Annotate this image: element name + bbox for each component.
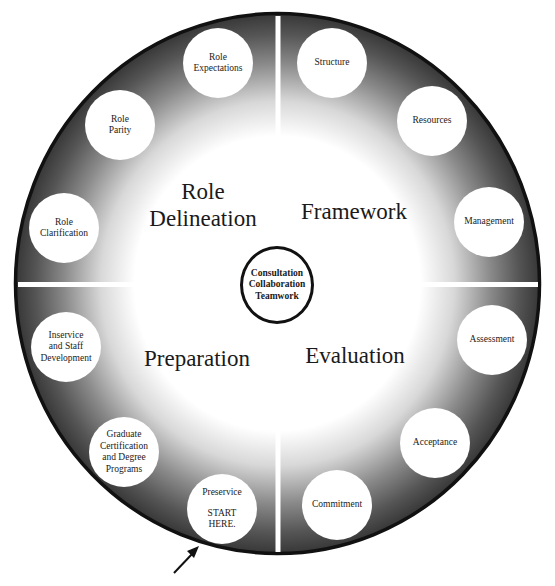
- node-text: Programs: [106, 464, 142, 476]
- center-line: Consultation: [251, 268, 303, 280]
- node-management[interactable]: Management: [454, 187, 524, 257]
- collaboration-cycle-diagram: Role Delineation Framework Preparation E…: [0, 0, 555, 586]
- start-here-text: HERE.: [208, 519, 235, 531]
- node-role-expectations[interactable]: Role Expectations: [183, 28, 253, 98]
- node-text: Development: [40, 353, 91, 365]
- node-text: and Staff: [49, 341, 83, 353]
- node-assessment[interactable]: Assessment: [457, 305, 527, 375]
- node-text: Resources: [412, 115, 451, 127]
- node-role-parity[interactable]: Role Parity: [85, 90, 155, 160]
- center-line: Teamwork: [255, 291, 298, 303]
- quadrant-label-preparation: Preparation: [144, 345, 250, 372]
- node-text: Assessment: [470, 334, 515, 346]
- node-text: Clarification: [40, 228, 88, 240]
- node-text: Structure: [315, 57, 350, 69]
- label-line: Preparation: [144, 345, 250, 372]
- center-line: Collaboration: [249, 279, 305, 291]
- node-acceptance[interactable]: Acceptance: [400, 408, 470, 478]
- node-resources[interactable]: Resources: [397, 86, 467, 156]
- quadrant-label-role-delineation: Role Delineation: [149, 178, 256, 232]
- node-text: Acceptance: [413, 437, 457, 449]
- label-line: Delineation: [149, 205, 256, 232]
- node-commitment[interactable]: Commitment: [302, 470, 372, 540]
- start-here-text: START: [208, 508, 237, 520]
- node-text: Certification: [100, 441, 148, 453]
- node-text: Management: [464, 216, 514, 228]
- node-text: Expectations: [193, 63, 242, 75]
- center-core-circle: Consultation Collaboration Teamwork: [240, 246, 314, 324]
- label-line: Framework: [301, 198, 407, 225]
- node-graduate-programs[interactable]: Graduate Certification and Degree Progra…: [89, 417, 159, 487]
- node-text: and Degree: [102, 452, 146, 464]
- node-text: Commitment: [312, 499, 362, 511]
- node-inservice[interactable]: Inservice and Staff Development: [31, 312, 101, 382]
- node-text: Role: [111, 114, 129, 126]
- node-text: Preservice: [202, 487, 242, 499]
- node-text: Role: [209, 52, 227, 64]
- quadrant-label-framework: Framework: [301, 198, 407, 225]
- label-line: Role: [149, 178, 256, 205]
- node-text: Parity: [109, 125, 132, 137]
- node-text: Graduate: [107, 429, 142, 441]
- node-structure[interactable]: Structure: [297, 28, 367, 98]
- arrow-up-right-icon: [174, 546, 199, 573]
- node-preservice[interactable]: Preservice START HERE.: [187, 474, 257, 544]
- quadrant-label-evaluation: Evaluation: [305, 342, 405, 369]
- label-line: Evaluation: [305, 342, 405, 369]
- node-text: Inservice: [49, 330, 84, 342]
- node-text: Role: [55, 217, 73, 229]
- node-role-clarification[interactable]: Role Clarification: [29, 193, 99, 263]
